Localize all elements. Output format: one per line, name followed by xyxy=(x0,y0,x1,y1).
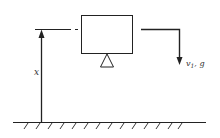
height-arrow xyxy=(39,30,45,123)
output-arrow xyxy=(141,30,183,66)
pivot-triangle xyxy=(101,54,114,67)
velocity-label: v1, g xyxy=(186,59,205,69)
height-label: x xyxy=(34,67,39,77)
block-box xyxy=(82,16,133,54)
ground xyxy=(13,123,206,130)
diagram-canvas: x v1, g xyxy=(0,0,220,138)
